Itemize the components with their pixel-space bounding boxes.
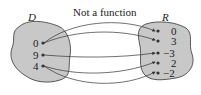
range-value: 3	[171, 36, 177, 47]
domain-value: 0	[33, 38, 39, 49]
range-label: R	[162, 12, 169, 23]
range-value: −2	[163, 68, 175, 79]
domain-value: 4	[33, 61, 39, 72]
domain-blob	[11, 21, 71, 82]
domain-label: D	[28, 12, 36, 23]
diagram-title: Not a function	[73, 7, 137, 18]
